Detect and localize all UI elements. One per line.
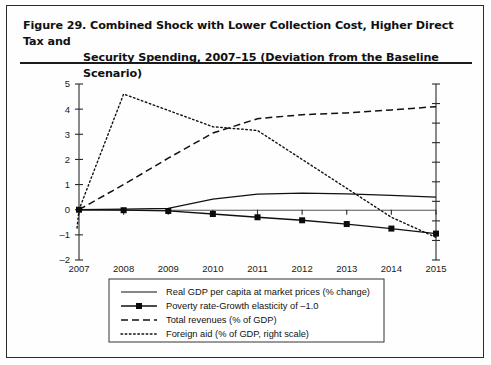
y-tick-label-4: 4 <box>65 104 70 115</box>
series-1-marker-6 <box>344 221 350 227</box>
series-1-marker-3 <box>210 211 216 217</box>
y-tick-label-1: 1 <box>65 179 70 190</box>
x-tick-label-2011: 2011 <box>247 263 267 274</box>
chart-series-layer <box>76 94 439 237</box>
y-tick-label--1: –1 <box>59 229 70 240</box>
x-tick-label-2012: 2012 <box>292 263 313 274</box>
y-tick-label-3: 3 <box>65 129 70 140</box>
series-1-marker-8 <box>433 231 439 237</box>
chart-legend: Real GDP per capita at market prices (% … <box>109 279 384 342</box>
x-axis-tick-labels: 200720082009201020112012201320142015 <box>68 263 446 274</box>
x-tick-label-2009: 2009 <box>158 263 179 274</box>
legend-label-3: Foreign aid (% of GDP, right scale) <box>166 329 309 339</box>
series-1-marker-4 <box>255 214 261 220</box>
legend-label-1: Poverty rate-Growth elasticity of –1.0 <box>166 301 318 311</box>
x-tick-label-2010: 2010 <box>202 263 223 274</box>
legend-label-0: Real GDP per capita at market prices (% … <box>166 287 370 297</box>
chart-axes <box>79 84 436 260</box>
x-tick-label-2014: 2014 <box>381 263 402 274</box>
chart-container: –2–1012345 20072008200920102011201220132… <box>7 64 485 354</box>
series-1-marker-1 <box>121 207 127 213</box>
legend-marker-1 <box>136 303 142 309</box>
y-tick-label-5: 5 <box>65 78 70 89</box>
y-tick-label-2: 2 <box>65 154 70 165</box>
x-tick-label-2007: 2007 <box>68 263 89 274</box>
x-tick-label-2008: 2008 <box>113 263 134 274</box>
series-1-marker-5 <box>299 217 305 223</box>
series-line-0 <box>79 193 436 210</box>
x-tick-label-2015: 2015 <box>425 263 446 274</box>
series-1-marker-7 <box>388 226 394 232</box>
y-tick-label-0: 0 <box>65 204 70 215</box>
figure-frame: Figure 29. Combined Shock with Lower Col… <box>6 5 484 358</box>
figure-title-line-1: Figure 29. Combined Shock with Lower Col… <box>23 19 453 48</box>
series-1-marker-2 <box>165 208 171 214</box>
line-chart: –2–1012345 20072008200920102011201220132… <box>7 64 485 354</box>
x-tick-label-2013: 2013 <box>336 263 357 274</box>
legend-label-2: Total revenues (% of GDP) <box>166 315 277 325</box>
